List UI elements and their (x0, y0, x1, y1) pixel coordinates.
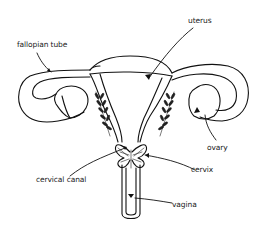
right-fallopian-tube (172, 64, 248, 121)
label-uterus: uterus (188, 17, 211, 25)
vagina-tube (122, 165, 140, 219)
cervix-butterfly (115, 145, 146, 168)
uterus-illustration (0, 0, 264, 230)
anatomy-diagram: fallopian tube uterus ovary cervix cervi… (0, 0, 264, 230)
right-ovary (189, 85, 220, 119)
cervix-leader (145, 155, 195, 170)
label-vagina: vagina (172, 201, 197, 209)
label-ovary: ovary (207, 144, 228, 152)
left-fallopian-tube (19, 66, 100, 122)
label-cervical-canal: cervical canal (36, 176, 86, 184)
label-fallopian-tube: fallopian tube (17, 41, 67, 49)
left-frond (94, 92, 112, 136)
label-cervix: cervix (191, 166, 213, 174)
